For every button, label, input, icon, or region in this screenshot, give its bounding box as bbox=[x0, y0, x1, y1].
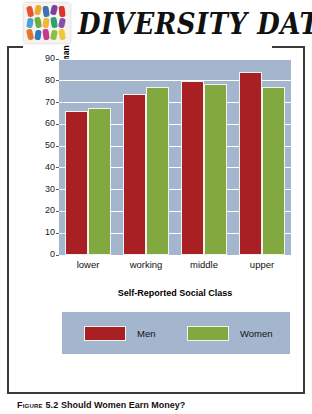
brand-wordmark: DIVERSITY DATA bbox=[78, 2, 268, 47]
figure-header: DIVERSITY DATA bbox=[0, 0, 312, 48]
y-tick-label: 30 bbox=[29, 184, 55, 194]
y-tick-label: 50 bbox=[29, 140, 55, 150]
chart-figure: Percent Approving of a Married Woman Ear… bbox=[17, 56, 295, 386]
bar-men-middle bbox=[181, 81, 204, 255]
y-tick-label: 40 bbox=[29, 162, 55, 172]
figure-page: DIVERSITY DATA Percent Approving of a Ma… bbox=[0, 0, 312, 414]
bar-men-working bbox=[123, 94, 146, 255]
y-tick-label: 60 bbox=[29, 118, 55, 128]
legend-label-women: Women bbox=[240, 328, 273, 339]
y-tick-label: 70 bbox=[29, 97, 55, 107]
bar-women-working bbox=[146, 87, 169, 255]
plot-area: 0102030405060708090 lowerworkingmiddleup… bbox=[59, 59, 291, 255]
bar-series-group bbox=[59, 59, 291, 255]
y-tick-label: 20 bbox=[29, 205, 55, 215]
bar-women-lower bbox=[88, 108, 111, 255]
figure-caption: Figure 5.2 Should Women Earn Money? bbox=[17, 400, 301, 411]
x-axis-title: Self-Reported Social Class bbox=[59, 288, 291, 298]
frame-rule-right bbox=[303, 46, 305, 394]
figure-caption-text: Should Women Earn Money? bbox=[61, 400, 185, 410]
bar-women-upper bbox=[262, 87, 285, 255]
bar-women-middle bbox=[204, 84, 227, 255]
legend-swatch-men bbox=[84, 326, 126, 341]
bar-men-upper bbox=[239, 72, 262, 255]
legend-entry-women: Women bbox=[187, 325, 273, 341]
x-tick-label-upper: upper bbox=[228, 259, 296, 270]
bar-men-lower bbox=[65, 111, 88, 255]
y-tick-label: 0 bbox=[29, 249, 55, 259]
legend-swatch-women bbox=[187, 326, 229, 341]
legend-entry-men: Men bbox=[84, 325, 155, 341]
legend-label-men: Men bbox=[137, 328, 155, 339]
chart-legend: MenWomen bbox=[62, 312, 290, 354]
frame-rule-bottom bbox=[7, 392, 305, 394]
figure-caption-label: Figure 5.2 bbox=[17, 400, 59, 410]
frame-rule-left bbox=[7, 46, 9, 394]
y-tick-label: 10 bbox=[29, 227, 55, 237]
y-tick-label: 80 bbox=[29, 75, 55, 85]
y-tick-label: 90 bbox=[29, 53, 55, 63]
